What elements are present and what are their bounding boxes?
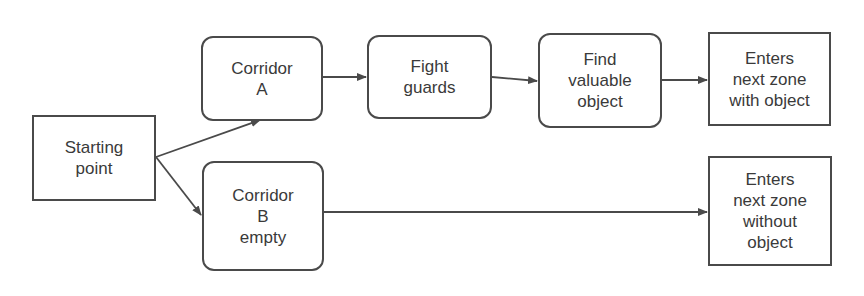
edge-start-to-corridor-a [156, 120, 260, 157]
node-enters-with-object: Enters next zone with object [708, 32, 831, 126]
node-label: Enters next zone without object [733, 169, 807, 253]
edge-fight-to-find [492, 77, 537, 81]
node-corridor-a: Corridor A [201, 36, 323, 121]
node-label: Corridor B empty [232, 185, 293, 248]
node-find-valuable-object: Find valuable object [538, 33, 662, 128]
node-enters-without-object: Enters next zone without object [708, 156, 832, 266]
node-corridor-b: Corridor B empty [202, 161, 324, 271]
node-label: Starting point [65, 137, 124, 179]
edge-start-to-corridor-b [156, 157, 201, 215]
node-label: Find valuable object [568, 49, 631, 112]
node-label: Enters next zone with object [729, 48, 809, 111]
node-starting-point: Starting point [32, 115, 156, 201]
node-label: Corridor A [231, 58, 292, 100]
node-label: Fight guards [404, 56, 456, 98]
node-fight-guards: Fight guards [367, 35, 492, 119]
